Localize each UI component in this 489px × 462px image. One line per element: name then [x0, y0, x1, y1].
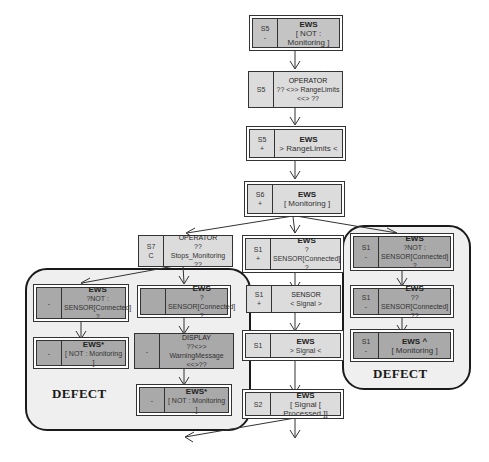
proposition: [ Signal [ Processed ]] — [273, 400, 338, 418]
state-sign: - — [48, 349, 50, 358]
state-id: S2 — [254, 400, 263, 409]
node-operator-rangelimits: S5 OPERATOR?? <>> RangeLimits <<> ?? — [248, 71, 343, 108]
agent-label: EWS — [193, 284, 211, 293]
state-sign: - — [151, 396, 153, 405]
agent-label: EWS — [89, 285, 107, 294]
proposition: [ Monitoring ] — [391, 346, 437, 355]
node-defect-display-warning: - DISPLAY??<>> WarningMessage <<>?? — [134, 333, 234, 369]
node-ews-sensor-connected: S1+ EWS? SENSOR[Connected] ? — [242, 235, 344, 273]
state-id: S6 — [256, 190, 265, 199]
agent-label: SENSOR — [291, 290, 321, 299]
proposition: > RangeLimits < — [279, 144, 337, 153]
agent-label: EWS — [298, 190, 316, 199]
state-id: S1 — [254, 341, 263, 350]
state-sign: - — [365, 346, 367, 355]
proposition: [ NOT : Monitoring ] — [64, 349, 123, 367]
node-operator-stops-monitoring: S7C OPERATOR?? Stops_Monitoring ?? — [138, 235, 233, 267]
state-id: S1 — [362, 337, 371, 346]
state-sign: C — [148, 251, 153, 260]
proposition: ? SENSOR[Connected] ? — [168, 293, 235, 320]
proposition: ? SENSOR[Connected] ? — [273, 245, 340, 272]
agent-label: EWS ^ — [402, 337, 427, 346]
state-sign: + — [260, 144, 264, 153]
left-defect-label: DEFECT — [52, 386, 107, 402]
agent-label: DISPLAY — [182, 333, 211, 342]
scenario-diagram: DEFECT DEFECT — [0, 0, 489, 462]
node-defect-ews-not-sensor-connected: - EWS?NOT : SENSOR[Connected] ? — [33, 284, 129, 322]
node-right-ews-sensor-connected: S1- EWS?? SENSOR[Connected] ?? — [350, 285, 454, 318]
agent-label: EWS — [406, 234, 424, 243]
agent-label: OPERATOR — [179, 233, 218, 242]
agent-label: EWS — [296, 391, 314, 400]
node-right-ews-monitoring: S1- EWS ^[ Monitoring ] — [350, 329, 454, 362]
proposition: < Signal > — [290, 299, 322, 308]
agent-label: EWS* — [83, 340, 104, 349]
proposition: [ NOT : Monitoring ] — [280, 29, 337, 47]
state-sign: - — [48, 299, 50, 308]
node-ews-signal: S1 EWS> Signal < — [242, 330, 344, 361]
right-defect-label: DEFECT — [373, 366, 428, 382]
state-id: S1 — [255, 290, 264, 299]
agent-label: EWS — [406, 284, 424, 293]
agent-label: EWS — [299, 20, 317, 29]
node-ews-signal-processed: S2 EWS[ Signal [ Processed ]] — [242, 389, 344, 419]
state-sign: - — [365, 252, 367, 261]
proposition: ?NOT : SENSOR[Connected] ? — [64, 294, 131, 321]
node-defect-ews-not-monitoring-1: - EWS*[ NOT : Monitoring ] — [33, 337, 129, 369]
node-defect-ews-not-monitoring-2: - EWS*[ NOT : Monitoring ] — [136, 384, 232, 416]
node-sensor-signal: S1+ SENSOR< Signal > — [246, 285, 341, 313]
node-ews-not-monitoring: S5- EWS[ NOT : Monitoring ] — [249, 15, 343, 51]
state-sign: - — [146, 347, 148, 356]
node-right-ews-not-sensor-connected: S1- EWS?NOT : SENSOR[Connected] ? — [350, 233, 454, 271]
proposition: > Signal < — [290, 346, 322, 355]
state-sign: + — [256, 254, 260, 263]
agent-label: OPERATOR — [289, 76, 328, 85]
agent-label: EWS — [298, 236, 316, 245]
state-id: S7 — [147, 242, 156, 251]
agent-label: EWS* — [186, 387, 207, 396]
state-sign: + — [258, 199, 262, 208]
proposition: ?NOT : SENSOR[Connected] ? — [381, 243, 448, 270]
state-sign: - — [365, 302, 367, 311]
state-id: S5 — [257, 85, 266, 94]
proposition: ??<>> WarningMessage <<>?? — [162, 342, 231, 369]
node-ews-monitoring: S6+ EWS[ Monitoring ] — [244, 181, 345, 217]
state-id: S5 — [261, 24, 270, 33]
proposition: [ NOT : Monitoring ] — [167, 396, 226, 414]
agent-label: EWS — [299, 135, 317, 144]
state-sign: + — [257, 299, 261, 308]
node-ews-rangelimits: S5+ EWS> RangeLimits < — [246, 126, 346, 161]
node-defect-ews-sensor-connected: EWS? SENSOR[Connected] ? — [137, 285, 231, 318]
state-id: S1 — [254, 245, 263, 254]
proposition: ?? Stops_Monitoring ?? — [166, 242, 230, 269]
proposition: ?? SENSOR[Connected] ?? — [381, 293, 448, 320]
state-id: S5 — [258, 135, 267, 144]
state-id: S1 — [362, 243, 371, 252]
state-sign: - — [264, 33, 266, 42]
state-id: S1 — [362, 293, 371, 302]
proposition: [ Monitoring ] — [284, 199, 330, 208]
proposition: ?? <>> RangeLimits <<> ?? — [276, 85, 340, 103]
agent-label: EWS — [296, 337, 314, 346]
